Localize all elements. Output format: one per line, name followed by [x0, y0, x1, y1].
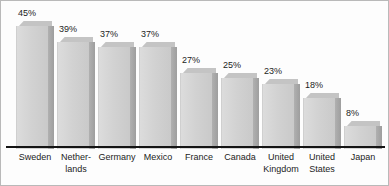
bar-top-face [183, 68, 216, 73]
bar-side-face [130, 47, 136, 149]
bar-top-face [347, 121, 380, 126]
bar-top-face [142, 42, 175, 47]
bar-side-face [212, 73, 218, 149]
bar-side-face [171, 47, 177, 149]
bar-front-face [303, 98, 336, 149]
bar-value-label: 8% [346, 108, 359, 118]
bar-group[interactable]: 39% [57, 37, 95, 149]
bar-group[interactable]: 27% [180, 68, 218, 149]
bar-side-face [294, 84, 300, 149]
bar-value-label: 18% [305, 80, 323, 90]
bar-front-face [180, 73, 213, 149]
bar-front-face [57, 42, 90, 149]
bar-front-face [262, 84, 295, 149]
bar-front-face [16, 26, 49, 149]
bar-value-label: 39% [59, 24, 77, 34]
bar-value-label: 27% [182, 55, 200, 65]
bar-top-face [60, 37, 93, 42]
bar-value-label: 25% [223, 60, 241, 70]
bar-side-face [253, 78, 259, 149]
category-label-japan: Japan [338, 151, 388, 163]
bar-front-face [98, 47, 131, 149]
bar-group[interactable]: 25% [221, 73, 259, 149]
bar-value-label: 45% [18, 8, 36, 18]
bar-front-face [221, 78, 254, 149]
bar-top-face [265, 79, 298, 84]
category-labels: Sweden Nether- lands Germany Mexico Fran… [1, 151, 389, 186]
bar-chart: 45% 39% 37% 37% 27% [0, 0, 389, 186]
bar-top-face [19, 21, 52, 26]
bar-group[interactable]: 37% [98, 42, 136, 149]
bar-side-face [335, 98, 341, 149]
bar-side-face [48, 26, 54, 149]
bar-top-face [101, 42, 134, 47]
bar-group[interactable]: 18% [303, 93, 341, 149]
plot-area: 45% 39% 37% 37% 27% [1, 1, 389, 149]
bar-top-face [306, 93, 339, 98]
bar-group[interactable]: 45% [16, 21, 54, 149]
bar-group[interactable]: 8% [344, 121, 382, 149]
bar-top-face [224, 73, 257, 78]
bar-value-label: 37% [100, 29, 118, 39]
bar-group[interactable]: 23% [262, 79, 300, 149]
x-axis-baseline [6, 146, 385, 148]
bar-value-label: 23% [264, 66, 282, 76]
bar-group[interactable]: 37% [139, 42, 177, 149]
bar-side-face [89, 42, 95, 149]
bar-front-face [139, 47, 172, 149]
bar-value-label: 37% [141, 29, 159, 39]
